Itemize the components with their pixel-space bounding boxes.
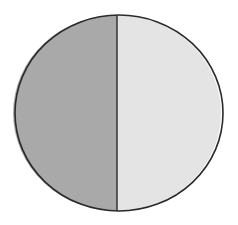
pie-slice-left <box>13 15 117 211</box>
pie-chart <box>0 0 238 225</box>
pie-chart-svg <box>0 0 238 225</box>
pie-slice-right <box>117 15 221 211</box>
